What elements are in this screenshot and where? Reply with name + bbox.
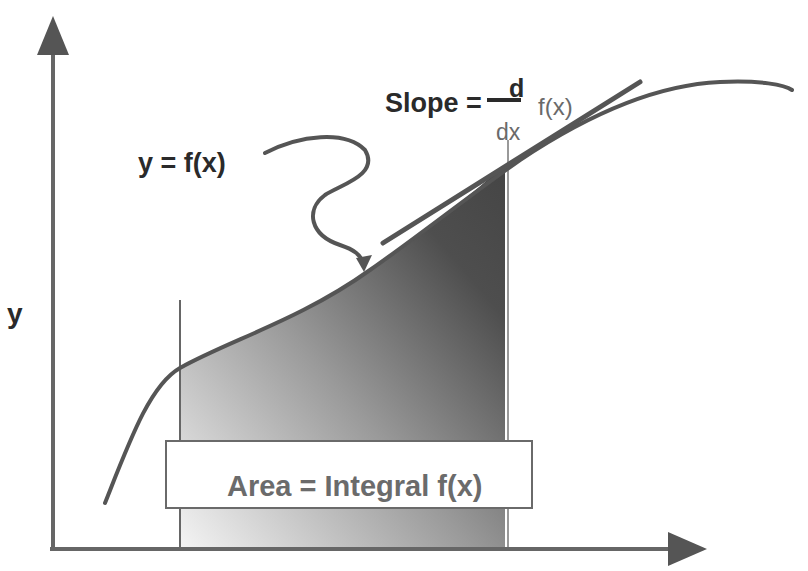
slope-denominator: dx [496,121,520,144]
slope-label: Slope = [385,90,482,117]
pointer-arrow [265,137,368,262]
function-label: y = f(x) [138,150,226,177]
area-label-box: Area = Integral f(x) [165,440,533,509]
area-label: Area = Integral f(x) [227,470,482,503]
y-axis-label: y [7,300,23,328]
x-axis-arrow-icon [668,532,707,566]
slope-function-label: f(x) [538,95,573,119]
y-axis-arrow-icon [37,16,69,55]
fraction-bar [487,98,521,102]
